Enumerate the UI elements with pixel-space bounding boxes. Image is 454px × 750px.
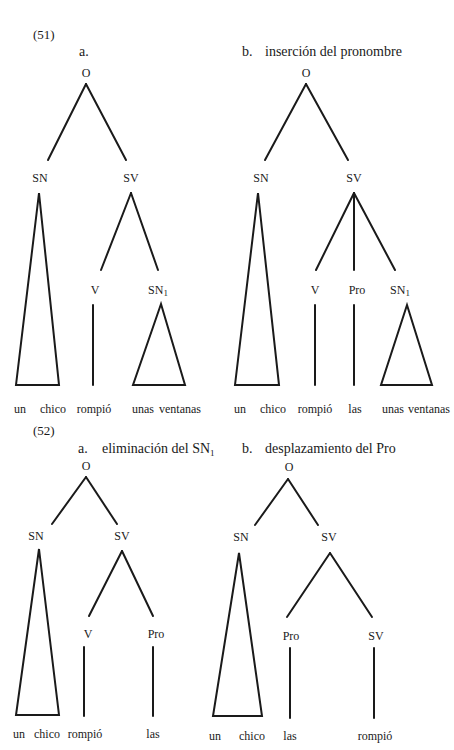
tree-52a: a. eliminación del SN1 O SN SV V Pro un … bbox=[13, 441, 215, 741]
tree-51a: a. O SN SV V SN1 un chico rompió unas ve… bbox=[14, 44, 201, 416]
triangle-51a-sn1 bbox=[133, 304, 185, 385]
word-51a-0: un bbox=[14, 402, 26, 416]
edge-51a-root-sv bbox=[86, 84, 126, 160]
edge-52b-sv-sv bbox=[330, 553, 372, 617]
node-52a-pro: Pro bbox=[148, 627, 165, 641]
node-51a-sn1: SN1 bbox=[148, 283, 168, 298]
node-51b-root: O bbox=[302, 66, 311, 80]
node-52b-sn: SN bbox=[233, 530, 249, 544]
node-51a-sv: SV bbox=[123, 171, 139, 185]
edge-51a-sv-sn1 bbox=[131, 193, 158, 270]
triangle-51a-sn bbox=[16, 193, 59, 385]
edge-51b-sv-sn1 bbox=[354, 193, 395, 270]
edge-52a-root-sv bbox=[86, 477, 117, 524]
tree-52b-title: desplazamiento del Pro bbox=[265, 441, 396, 456]
edge-52b-root-sv bbox=[288, 479, 318, 525]
edge-51a-sv-v bbox=[101, 193, 131, 270]
word-52b-1: chico bbox=[239, 729, 265, 743]
word-52b-3: rompió bbox=[358, 729, 393, 743]
edge-51b-root-sv bbox=[306, 84, 348, 160]
tree-51a-letter: a. bbox=[79, 44, 89, 59]
word-52b-2: las bbox=[283, 729, 297, 743]
word-52a-1: chico bbox=[34, 727, 60, 741]
example-number-51: (51) bbox=[33, 27, 55, 42]
node-51b-sv: SV bbox=[346, 171, 362, 185]
word-52b-0: un bbox=[209, 729, 221, 743]
node-51b-pro: Pro bbox=[349, 283, 366, 297]
node-51b-sn: SN bbox=[253, 171, 269, 185]
edge-51a-root-sn bbox=[48, 84, 86, 160]
word-51a-2: rompió bbox=[77, 402, 112, 416]
node-51a-sn: SN bbox=[32, 171, 48, 185]
node-52a-sv: SV bbox=[114, 529, 130, 543]
edge-52a-sv-v bbox=[89, 551, 122, 616]
word-51b-2: rompió bbox=[298, 402, 333, 416]
tree-51b-letter: b. bbox=[242, 44, 253, 59]
word-51a-4: ventanas bbox=[159, 402, 201, 416]
node-51a-root: O bbox=[82, 66, 91, 80]
word-51b-3: las bbox=[348, 402, 362, 416]
edge-51b-sv-v bbox=[316, 193, 354, 270]
tree-51b-title: inserción del pronombre bbox=[265, 44, 402, 59]
word-52a-0: un bbox=[13, 727, 25, 741]
word-51b-1: chico bbox=[260, 402, 286, 416]
node-51b-v: V bbox=[311, 283, 320, 297]
triangle-52a-sn bbox=[16, 549, 59, 715]
node-52b-sv: SV bbox=[321, 530, 337, 544]
triangle-51b-sn bbox=[235, 193, 279, 385]
triangle-52b-sn bbox=[213, 553, 262, 716]
word-51a-1: chico bbox=[40, 402, 66, 416]
node-52a-sn: SN bbox=[28, 529, 44, 543]
node-51b-sn1: SN1 bbox=[390, 283, 410, 298]
word-51b-0: un bbox=[234, 402, 246, 416]
tree-52b-letter: b. bbox=[242, 441, 253, 456]
example-number-52: (52) bbox=[33, 423, 55, 438]
edge-52a-root-sn bbox=[52, 477, 86, 524]
tree-52a-letter: a. bbox=[78, 441, 88, 456]
node-52b-sv2: SV bbox=[368, 629, 384, 643]
tree-52b: b. desplazamiento del Pro O SN SV Pro SV… bbox=[209, 441, 396, 743]
node-52b-pro: Pro bbox=[283, 629, 300, 643]
node-52a-root: O bbox=[82, 459, 91, 473]
node-51a-v: V bbox=[91, 283, 100, 297]
node-52a-v: V bbox=[84, 627, 93, 641]
edge-52b-sv-pro bbox=[287, 553, 330, 617]
tree-52a-title: eliminación del SN1 bbox=[102, 441, 215, 458]
syntax-tree-figure: (51) a. O SN SV V SN1 un chico rompió un… bbox=[0, 0, 454, 750]
node-52b-root: O bbox=[285, 460, 294, 474]
word-51a-3: unas bbox=[132, 402, 154, 416]
edge-52b-root-sn bbox=[255, 479, 288, 525]
triangle-51b-sn1 bbox=[381, 305, 432, 385]
word-51b-4: unas bbox=[382, 402, 404, 416]
tree-51b: b. inserción del pronombre O SN SV V Pro… bbox=[234, 44, 450, 416]
edge-52a-sv-pro bbox=[122, 551, 153, 616]
edge-51b-root-sn bbox=[265, 84, 306, 160]
word-52a-3: las bbox=[146, 727, 160, 741]
word-51b-5: ventanas bbox=[408, 402, 450, 416]
word-52a-2: rompió bbox=[68, 727, 103, 741]
